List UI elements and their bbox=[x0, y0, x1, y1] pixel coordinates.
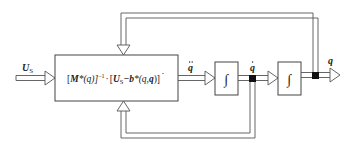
qddot-arrow bbox=[178, 71, 215, 85]
block-diagram: US [M*(q)]−1·[US−b*(q,q)] q q q ∫ ∫ bbox=[0, 0, 351, 152]
qdot-branch-node bbox=[249, 75, 256, 82]
q-label: q bbox=[328, 55, 333, 66]
input-label: US bbox=[22, 62, 33, 75]
qddot-label: q bbox=[188, 62, 193, 73]
main-block-formula: [M*(q)]−1·[US−b*(q,q)] bbox=[67, 73, 160, 85]
qddot-dot-1 bbox=[189, 61, 190, 62]
input-arrow bbox=[16, 71, 55, 85]
q-branch-node bbox=[312, 72, 319, 79]
qdot-label: q bbox=[250, 62, 255, 73]
qddot-dot-2 bbox=[192, 61, 193, 62]
qdot-arrow bbox=[238, 71, 278, 85]
qdot-dot bbox=[252, 61, 253, 62]
formula-qdot-dot bbox=[162, 73, 163, 74]
q-output-arrow bbox=[301, 68, 340, 82]
